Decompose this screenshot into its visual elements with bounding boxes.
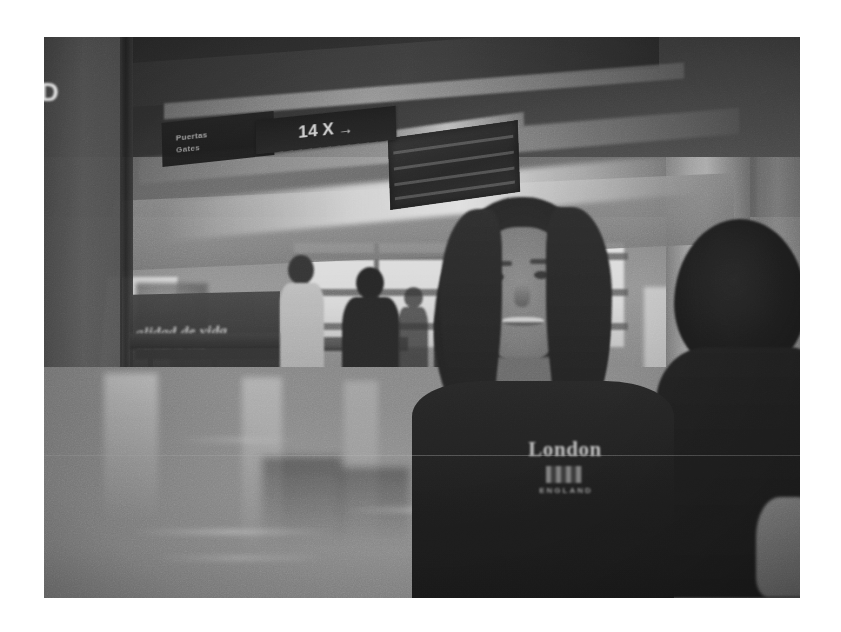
page-root: Puertas Gates 14 X → D alidad de vida C: [0, 0, 841, 632]
nose: [514, 285, 530, 307]
floor-highlight-streak: [176, 437, 296, 443]
floor-highlight-streak: [132, 529, 332, 535]
sign-edge-glyph: D: [44, 77, 59, 108]
photograph: Puertas Gates 14 X → D alidad de vida C: [44, 37, 800, 598]
tshirt-england-text: ENGLAND: [506, 486, 626, 495]
tshirt-london-text: London: [500, 437, 630, 462]
mouth-smile: [502, 317, 544, 326]
union-flag-icon: [546, 466, 582, 483]
arm: [756, 497, 800, 597]
floor-highlight-streak: [154, 555, 324, 561]
foreground-subject-woman: London ENGLAND: [396, 185, 696, 598]
floor-reflection: [104, 373, 158, 523]
